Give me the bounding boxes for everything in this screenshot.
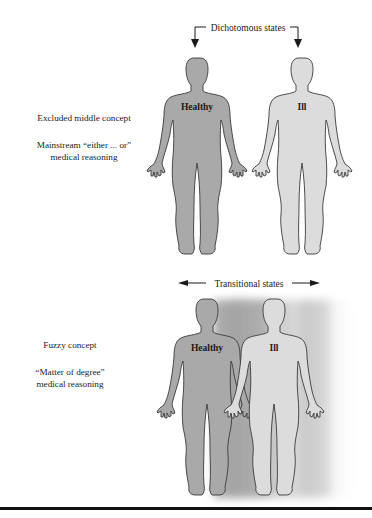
transitional-label: Transitional states [214,279,283,289]
arrow-right-icon [310,280,320,286]
bottom-healthy-label: Healthy [191,343,223,353]
top-ill-figure: Ill [252,58,352,254]
top-ill-label: Ill [298,102,307,112]
transitional-arrow: Transitional states [178,279,320,289]
arrow-down-left-icon [191,39,199,48]
dichotomous-label: Dichotomous states [211,23,286,33]
bottom-rule [0,507,372,510]
bottom-ill-label: Ill [270,343,279,353]
arrow-left-icon [178,280,188,286]
arrow-down-right-icon [294,39,302,48]
top-healthy-figure: Healthy [147,58,247,254]
dichotomous-arrow: Dichotomous states [191,23,302,48]
top-healthy-label: Healthy [181,102,213,112]
diagram-canvas: Dichotomous states Healthy Ill Transitio… [0,0,372,518]
